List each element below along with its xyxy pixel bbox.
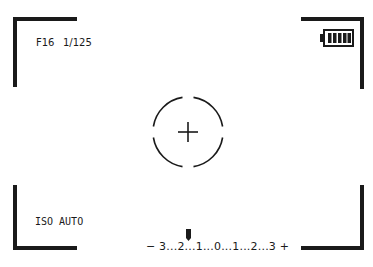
exposure-scale: − 3...2...1...0...1...2...3 +: [146, 240, 289, 253]
frame-corner-top-left-h: [13, 17, 77, 21]
iso-value: ISO AUTO: [35, 216, 83, 227]
aperture-value: F16: [36, 37, 54, 48]
frame-corner-bottom-left-v: [13, 185, 17, 250]
frame-corner-bottom-right-h: [301, 246, 364, 250]
frame-corner-top-right-h: [301, 17, 364, 21]
frame-corner-bottom-left-h: [13, 246, 77, 250]
shutter-speed-value: 1/125: [63, 37, 92, 48]
frame-corner-bottom-right-v: [360, 185, 364, 250]
frame-corner-top-right-v: [360, 17, 364, 89]
frame-corner-top-left-v: [13, 17, 17, 87]
